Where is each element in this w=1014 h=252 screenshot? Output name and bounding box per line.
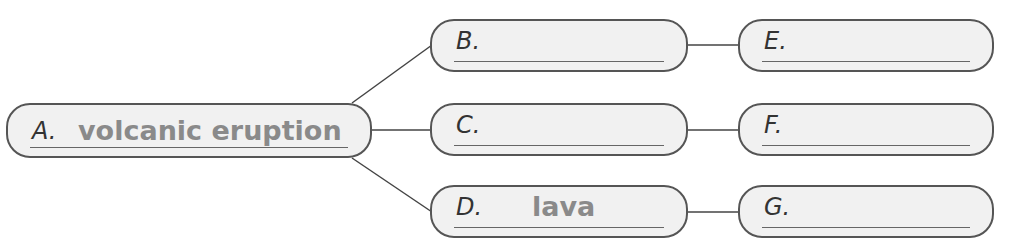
node-a-label: A. bbox=[32, 117, 57, 145]
node-d-answer-line bbox=[454, 227, 664, 228]
node-e-label: E. bbox=[764, 27, 787, 55]
node-d: D. lava bbox=[430, 185, 688, 238]
node-b-answer-line bbox=[454, 61, 664, 62]
node-d-label: D. bbox=[456, 193, 482, 221]
node-e: E. bbox=[738, 19, 994, 72]
node-a-answer[interactable]: volcanic eruption bbox=[78, 115, 342, 146]
node-g: G. bbox=[738, 185, 994, 238]
node-a: A. volcanic eruption bbox=[6, 103, 372, 158]
node-c: C. bbox=[430, 103, 688, 156]
node-f-label: F. bbox=[764, 111, 782, 139]
node-b: B. bbox=[430, 19, 688, 72]
node-b-label: B. bbox=[456, 27, 480, 55]
node-c-answer-line bbox=[454, 145, 664, 146]
node-e-answer-line bbox=[762, 61, 970, 62]
node-d-answer[interactable]: lava bbox=[532, 191, 595, 222]
node-a-answer-line bbox=[30, 147, 348, 148]
node-c-label: C. bbox=[456, 111, 480, 139]
node-g-answer-line bbox=[762, 227, 970, 228]
node-g-label: G. bbox=[764, 193, 790, 221]
node-f: F. bbox=[738, 103, 994, 156]
node-f-answer-line bbox=[762, 145, 970, 146]
